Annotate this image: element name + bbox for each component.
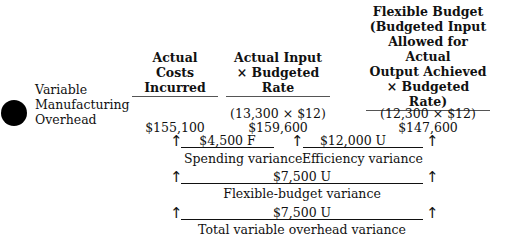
formula-flexible-budget: (12,300 × $12) xyxy=(366,106,490,121)
arrow-up-icon: ↑ xyxy=(426,206,439,221)
header-line: (Budgeted Input xyxy=(366,19,490,34)
row-label: Variable Manufacturing Overhead xyxy=(35,82,130,127)
column-header-flexible-budget: Flexible Budget (Budgeted Input Allowed … xyxy=(366,4,490,111)
header-line: Output Achieved xyxy=(366,64,490,79)
column-header-actual-costs: Actual Costs Incurred xyxy=(132,50,218,97)
header-line: Allowed for Actual xyxy=(366,34,490,64)
arrow-up-icon: ↑ xyxy=(426,134,439,149)
header-line: Incurred xyxy=(132,80,218,95)
header-line: Flexible Budget xyxy=(366,4,490,19)
flexible-budget-variance-amount: $7,500 U xyxy=(181,169,423,184)
row-label-line-1: Variable xyxy=(35,82,130,97)
row-label-line-3: Overhead xyxy=(35,112,130,127)
spending-variance-amount: $4,500 F xyxy=(181,133,274,148)
flexible-budget-variance-label: Flexible-budget variance xyxy=(181,186,423,201)
arrow-up-icon: ↑ xyxy=(291,134,304,149)
efficiency-variance-label: Efficiency variance xyxy=(302,151,423,166)
bullet-dot-icon xyxy=(1,100,27,126)
header-line: × Budgeted Rate xyxy=(226,65,330,95)
column-header-actual-input: Actual Input × Budgeted Rate xyxy=(226,50,330,97)
header-line: Actual Input xyxy=(226,50,330,65)
header-line: Actual Costs xyxy=(132,50,218,80)
spending-variance-label: Spending variance xyxy=(184,151,302,166)
total-variance-amount: $7,500 U xyxy=(181,205,423,220)
total-variance-label: Total variable overhead variance xyxy=(171,222,433,237)
efficiency-variance-amount: $12,000 U xyxy=(303,133,403,148)
row-label-line-2: Manufacturing xyxy=(35,97,130,112)
header-line: × Budgeted Rate) xyxy=(366,79,490,109)
formula-actual-input: (13,300 × $12) xyxy=(226,106,330,121)
arrow-up-icon: ↑ xyxy=(426,170,439,185)
